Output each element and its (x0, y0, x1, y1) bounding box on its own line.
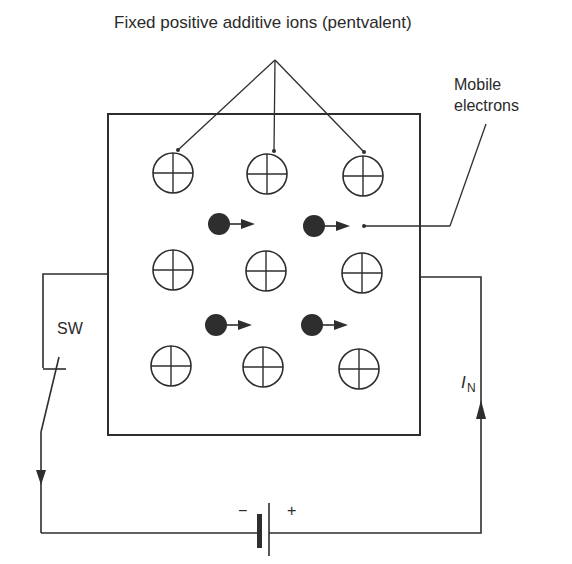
switch: SW (41, 320, 84, 432)
electron-icon (205, 314, 252, 336)
positive-ion-icon (243, 347, 283, 387)
ion-leader-lines (176, 60, 366, 154)
arrow-right-icon (238, 320, 252, 330)
electron-icon (301, 314, 348, 336)
switch-label: SW (57, 320, 84, 337)
positive-ion-icon (153, 250, 193, 290)
positive-ion-icon (246, 251, 286, 291)
positive-ion-icon (343, 156, 383, 196)
battery-negative-sign: − (238, 502, 247, 519)
n-type-semiconductor-diagram: Fixed positive additive ions (pentvalent… (0, 0, 572, 564)
arrow-right-icon (336, 221, 350, 231)
up-arrow-icon (476, 400, 486, 419)
title-label: Fixed positive additive ions (pentvalent… (114, 13, 412, 32)
mobile-electrons-label-line2: electrons (454, 97, 519, 114)
arrow-right-icon (334, 320, 348, 330)
down-arrow-icon (36, 470, 46, 485)
positive-ion-icon (342, 253, 382, 293)
positive-ion-icon (153, 153, 193, 193)
battery-negative-plate (257, 514, 262, 548)
mobile-electrons-label-line1: Mobile (454, 76, 501, 93)
circuit-bottom-left-wire (36, 432, 258, 533)
circuit-right-wire (269, 277, 486, 533)
battery-positive-sign: + (287, 502, 296, 519)
battery: − + (238, 502, 296, 556)
current-symbol: I (461, 373, 466, 392)
current-label: I N (461, 373, 476, 395)
positive-ions (151, 153, 383, 389)
arrow-right-icon (241, 219, 255, 229)
electron-icon (303, 215, 350, 237)
positive-ion-icon (151, 346, 191, 386)
current-subscript: N (467, 381, 476, 395)
positive-ion-icon (339, 349, 379, 389)
mobile-electrons (205, 213, 350, 336)
positive-ion-icon (247, 154, 287, 194)
electron-icon (208, 213, 255, 235)
